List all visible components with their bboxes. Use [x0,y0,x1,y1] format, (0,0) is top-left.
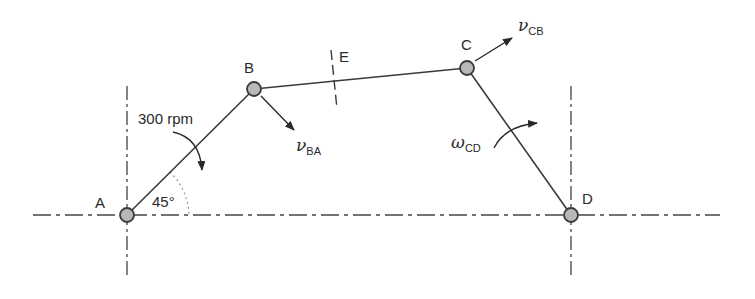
linkage-diagram: A B C D E 300 rpm 45° νBA νCB ωCD [0,0,755,299]
link-bc [254,68,467,89]
joints [120,61,578,222]
vba-label: νBA [296,135,322,157]
section-mark-e [331,50,337,109]
link-ab [127,89,254,215]
vcb-label: νCB [518,15,544,37]
links [127,68,571,215]
wcd-label: ωCD [451,132,481,154]
angle-label: 45° [152,193,175,210]
centerlines [33,86,720,278]
joint-c [460,61,474,75]
label-b: B [244,59,254,76]
vba-arrow-icon [261,96,294,130]
joint-a [120,208,134,222]
label-d: D [582,190,593,207]
label-e: E [339,48,349,65]
joint-d [564,208,578,222]
label-c: C [461,36,472,53]
speed-label: 300 rpm [138,110,193,127]
joint-b [247,82,261,96]
label-a: A [95,194,105,211]
vcb-arrow-icon [475,38,512,61]
link-cd [467,68,571,215]
